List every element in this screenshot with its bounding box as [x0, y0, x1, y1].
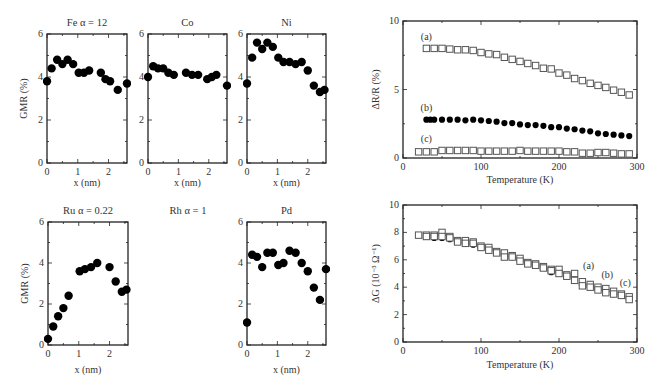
x-tick-label: 0: [401, 161, 406, 172]
series-label: (a): [421, 31, 432, 43]
data-marker-circle: [494, 119, 500, 125]
y-tick-label: 4: [38, 71, 43, 82]
y-tick-label: 10: [389, 15, 399, 26]
y-tick-label: 4: [238, 71, 243, 82]
y-axis-title: GMR (%): [19, 263, 31, 303]
data-marker-square: [603, 84, 609, 90]
x-tick-label: 0: [401, 345, 406, 356]
data-marker-square: [556, 70, 562, 76]
data-marker-circle: [93, 259, 101, 267]
data-marker-circle: [447, 117, 453, 123]
y-tick-label: 0: [238, 157, 243, 168]
data-marker-square: [509, 254, 515, 260]
data-marker-circle: [320, 86, 328, 94]
x-tick-label: 100: [474, 161, 489, 172]
x-tick-label: 2: [206, 166, 211, 177]
panel-title: Ru α = 0.22: [63, 205, 113, 216]
x-tick-label: 2: [107, 348, 112, 359]
plot-frame: [148, 34, 227, 163]
panel-co: Co0120246x (nm): [139, 17, 231, 189]
y-tick-label: 6: [238, 28, 243, 39]
data-marker-square: [431, 233, 437, 239]
data-marker-circle: [572, 126, 578, 132]
panel-title: Ni: [281, 17, 292, 28]
data-marker-circle: [486, 118, 492, 124]
data-marker-square: [517, 58, 523, 64]
data-marker-square: [478, 244, 484, 250]
data-marker-circle: [611, 132, 617, 138]
data-marker-circle: [322, 265, 330, 273]
data-marker-circle: [304, 66, 312, 74]
y-tick-label: 6: [38, 28, 43, 39]
data-marker-circle: [212, 71, 220, 79]
figure-canvas: Fe α = 120120246x (nm)GMR (%)Co0120246x …: [0, 0, 667, 387]
data-marker-circle: [243, 79, 251, 87]
x-tick-label: 1: [176, 166, 181, 177]
x-tick-label: 0: [245, 166, 250, 177]
data-marker-square: [587, 80, 593, 86]
data-marker-circle: [556, 124, 562, 130]
data-marker-square: [509, 148, 515, 154]
y-axis-title: ΔR/R (%): [370, 69, 382, 109]
x-axis-title: x (nm): [174, 177, 201, 189]
panel-title: Fe α = 12: [67, 17, 107, 28]
data-marker-square: [447, 235, 453, 241]
data-marker-square: [462, 47, 468, 53]
x-axis-title: Temperature (K): [487, 174, 554, 186]
data-marker-circle: [114, 86, 122, 94]
data-marker-circle: [618, 132, 624, 138]
data-marker-square: [548, 66, 554, 72]
data-marker-circle: [122, 285, 130, 293]
data-marker-circle: [455, 117, 461, 123]
data-marker-square: [603, 289, 609, 295]
y-tick-label: 0: [39, 339, 44, 350]
data-marker-square: [587, 284, 593, 290]
data-marker-circle: [304, 267, 312, 275]
y-tick-label: 2: [238, 298, 243, 309]
plot-frame: [47, 34, 127, 163]
data-marker-square: [532, 148, 538, 154]
y-axis-title: GMR (%): [18, 78, 30, 118]
data-marker-circle: [626, 133, 632, 139]
data-marker-square: [525, 60, 531, 66]
data-marker-circle: [297, 259, 305, 267]
data-marker-square: [415, 149, 421, 155]
data-marker-square: [571, 75, 577, 81]
data-marker-square: [525, 148, 531, 154]
data-marker-circle: [310, 81, 318, 89]
data-marker-square: [478, 49, 484, 55]
data-marker-square: [447, 46, 453, 52]
data-marker-square: [454, 239, 460, 245]
x-tick-label: 1: [76, 348, 81, 359]
data-marker-square: [540, 265, 546, 271]
data-marker-circle: [170, 71, 178, 79]
x-tick-label: 1: [275, 166, 280, 177]
data-marker-circle: [431, 117, 437, 123]
data-marker-circle: [269, 43, 277, 51]
data-marker-circle: [69, 60, 77, 68]
y-tick-label: 6: [238, 216, 243, 227]
data-marker-circle: [501, 120, 507, 126]
data-marker-square: [462, 240, 468, 246]
x-tick-label: 2: [305, 348, 310, 359]
data-marker-circle: [106, 77, 114, 85]
series-label: (c): [421, 133, 432, 145]
series-label: (b): [602, 269, 614, 281]
data-marker-circle: [223, 81, 231, 89]
data-marker-circle: [595, 130, 601, 136]
data-marker-square: [532, 62, 538, 68]
data-marker-square: [525, 261, 531, 267]
x-tick-label: 300: [630, 161, 645, 172]
x-tick-label: 0: [146, 166, 151, 177]
series-label: (a): [583, 260, 594, 272]
data-marker-circle: [548, 124, 554, 130]
data-marker-circle: [291, 249, 299, 257]
data-marker-square: [493, 250, 499, 256]
data-marker-square: [470, 240, 476, 246]
y-tick-label: 0: [238, 339, 243, 350]
panel-ru: Ru α = 0.220120246x (nm)GMR (%): [19, 205, 131, 376]
data-marker-square: [470, 47, 476, 53]
data-marker-square: [595, 149, 601, 155]
data-marker-square: [564, 72, 570, 78]
data-marker-square: [431, 149, 437, 155]
